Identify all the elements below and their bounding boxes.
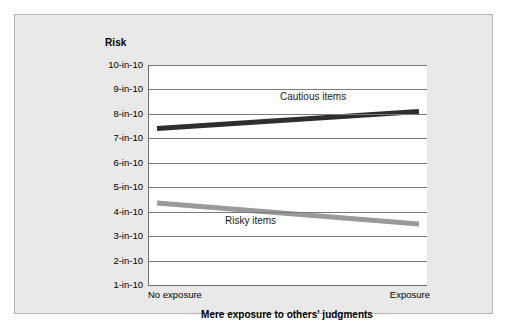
y-tick-label: 7-in-10	[97, 132, 143, 143]
gridline	[149, 187, 427, 188]
gridline	[149, 236, 427, 237]
y-tick-label: 8-in-10	[97, 108, 143, 119]
y-axis-tick-labels: 10-in-109-in-108-in-107-in-106-in-105-in…	[97, 65, 143, 285]
gridline	[149, 114, 427, 115]
gridline	[149, 212, 427, 213]
y-tick-label: 4-in-10	[97, 206, 143, 217]
y-tick-label: 1-in-10	[97, 279, 143, 290]
series-label-risky-items: Risky items	[225, 215, 276, 226]
series-line-risky-items	[157, 203, 419, 224]
gridline	[149, 138, 427, 139]
y-axis-title: Risk	[105, 37, 127, 48]
x-axis-title: Mere exposure to others' judgments	[148, 309, 426, 320]
y-tick-label: 3-in-10	[97, 230, 143, 241]
gridline	[149, 65, 427, 66]
plot-area: Cautious items Risky items	[148, 65, 427, 286]
y-tick-label: 9-in-10	[97, 83, 143, 94]
gridline	[149, 89, 427, 90]
y-tick-label: 10-in-10	[97, 59, 143, 70]
x-tick-label-no-exposure: No exposure	[148, 289, 202, 300]
series-label-cautious-items: Cautious items	[280, 91, 346, 102]
x-tick-label-exposure: Exposure	[386, 289, 430, 300]
y-tick-label: 2-in-10	[97, 255, 143, 266]
gridline	[149, 261, 427, 262]
y-tick-label: 6-in-10	[97, 157, 143, 168]
chart-panel: Risk 10-in-109-in-108-in-107-in-106-in-1…	[14, 14, 493, 314]
gridline	[149, 163, 427, 164]
chart-figure: Risk 10-in-109-in-108-in-107-in-106-in-1…	[0, 0, 508, 329]
y-tick-label: 5-in-10	[97, 181, 143, 192]
